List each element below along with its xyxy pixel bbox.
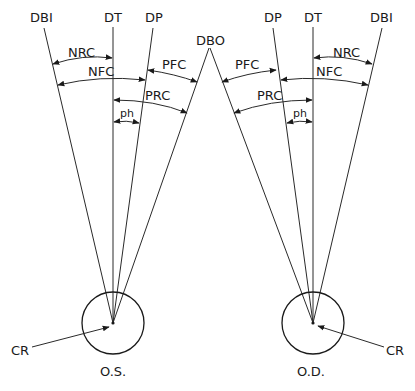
left-dt-label: DT xyxy=(104,10,122,25)
right-prc-label: PRC xyxy=(257,88,282,103)
right-ph-label: ph xyxy=(293,107,307,120)
left-prc-label: PRC xyxy=(145,88,170,103)
left-pfc-label: PFC xyxy=(162,57,186,72)
left-cr-pointer xyxy=(32,327,109,347)
left-dp-label: DP xyxy=(145,10,163,25)
left-center-of-rotation-dot xyxy=(111,321,114,324)
right-eye-label: O.D. xyxy=(297,364,325,379)
left-ph-arrow xyxy=(114,121,139,123)
left-cr-label: CR xyxy=(11,343,29,358)
left-dp-line xyxy=(113,28,153,323)
right-dt-label: DT xyxy=(304,10,322,25)
right-cr-pointer xyxy=(318,326,384,347)
right-dbi-label: DBI xyxy=(370,10,393,25)
left-dbi-label: DBI xyxy=(30,10,53,25)
left-ph-label: ph xyxy=(120,107,134,120)
right-center-of-rotation-dot xyxy=(311,321,314,324)
left-nfc-arrow xyxy=(58,78,145,85)
right-dp-line xyxy=(273,28,313,323)
left-eye-label: O.S. xyxy=(100,364,126,379)
binocular-fixation-diagram: DBI DT DP NRC NFC PFC PRC ph CR O.S. DBO… xyxy=(0,0,415,391)
left-nfc-label: NFC xyxy=(88,64,114,79)
right-dp-label: DP xyxy=(264,10,282,25)
right-eye-group: DP DT DBI PFC NRC NFC PRC ph CR O.D. xyxy=(210,10,404,379)
right-cr-label: CR xyxy=(386,343,404,358)
right-pfc-label: PFC xyxy=(235,57,259,72)
left-eye-group: DBI DT DP NRC NFC PFC PRC ph CR O.S. xyxy=(11,10,209,379)
right-nfc-label: NFC xyxy=(316,64,342,79)
right-ph-arrow xyxy=(287,121,312,123)
right-nrc-label: NRC xyxy=(333,45,360,60)
dbo-label: DBO xyxy=(196,33,225,48)
left-nrc-label: NRC xyxy=(68,45,95,60)
right-nfc-arrow xyxy=(281,78,368,85)
